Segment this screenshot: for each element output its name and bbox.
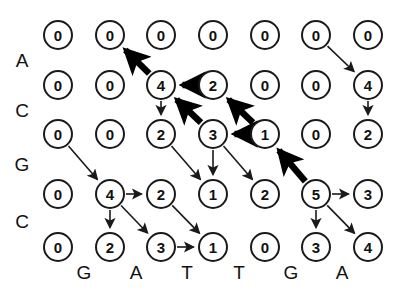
grid-node-r5c6: 3 [301,232,331,262]
row-label-2: C [15,101,29,120]
grid-node-r2c7: 4 [353,70,383,100]
row-label-4: C [15,212,29,231]
grid-node-r1c4: 0 [198,20,228,50]
grid-node-r3c6: 0 [301,119,331,149]
grid-node-r5c3: 3 [146,232,176,262]
grid-node-r3c7: 2 [353,119,383,149]
thin-edge-4 [171,146,200,179]
grid-node-r1c7: 0 [353,20,383,50]
grid-node-r2c4: 2 [198,70,228,100]
thin-edge-13 [327,205,354,233]
row-label-1: A [16,51,29,70]
col-label-3: T [181,263,193,282]
grid-node-r2c3: 4 [146,70,176,100]
grid-node-r4c3: 2 [146,179,176,209]
col-label-5: G [284,263,299,282]
grid-node-r4c1: 0 [43,179,73,209]
col-label-1: G [77,263,92,282]
grid-node-r1c2: 0 [95,20,125,50]
grid-node-r3c4: 3 [198,119,228,149]
grid-node-r4c7: 3 [353,179,383,209]
grid-node-r5c5: 0 [250,232,280,262]
grid-node-r5c7: 4 [353,232,383,262]
col-label-2: A [130,263,143,282]
grid-node-r4c2: 4 [95,179,125,209]
grid-node-r4c5: 2 [250,179,280,209]
grid-node-r2c2: 0 [95,70,125,100]
thin-edge-3 [68,146,97,179]
row-label-3: G [15,155,30,174]
bold-path-edge-0 [125,50,149,73]
grid-node-r1c3: 0 [146,20,176,50]
bold-path-edge-3 [229,100,253,123]
thin-edge-6 [223,146,252,179]
grid-node-r1c5: 0 [250,20,280,50]
grid-node-r5c4: 1 [198,232,228,262]
grid-node-r5c1: 0 [43,232,73,262]
grid-node-r3c1: 0 [43,119,73,149]
grid-node-r1c1: 0 [43,20,73,50]
bold-path-edge-2 [177,100,201,123]
grid-node-r2c5: 0 [250,70,280,100]
thin-edge-0 [328,46,354,71]
grid-node-r5c2: 2 [95,232,125,262]
grid-node-r1c6: 0 [301,20,331,50]
alignment-grid-figure: 00000000042004002310204212530231034 ACGC… [0,0,410,294]
thin-edge-10 [172,205,199,233]
grid-node-r3c2: 0 [95,119,125,149]
grid-node-r2c6: 0 [301,70,331,100]
grid-node-r4c6: 5 [301,179,331,209]
thin-edge-9 [121,206,147,233]
grid-node-r2c1: 0 [43,70,73,100]
col-label-4: T [233,263,245,282]
bold-path-edge-5 [279,150,305,181]
grid-node-r3c3: 2 [146,119,176,149]
col-label-6: A [336,263,349,282]
grid-node-r3c5: 1 [250,119,280,149]
grid-node-r4c4: 1 [198,179,228,209]
